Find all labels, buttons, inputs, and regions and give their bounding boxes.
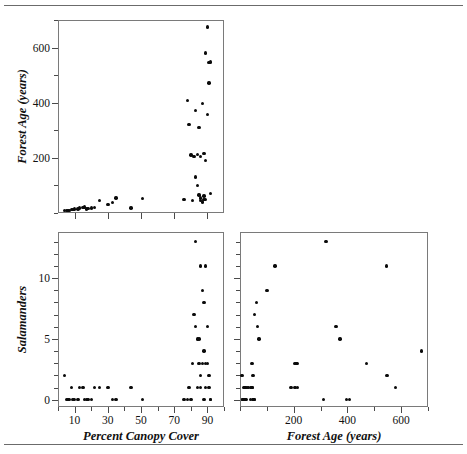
x-tick-minor xyxy=(91,407,92,411)
x-tick-label: 200 xyxy=(285,414,302,426)
data-point xyxy=(251,374,254,377)
data-point xyxy=(202,398,205,401)
data-point xyxy=(191,199,194,202)
y-tick-minor xyxy=(54,375,58,376)
y-tick-label: 5 xyxy=(44,333,50,345)
x-tick-minor xyxy=(267,407,268,411)
data-point xyxy=(204,159,207,162)
y-tick-major xyxy=(52,158,58,159)
data-point xyxy=(206,362,209,365)
data-point xyxy=(70,386,73,389)
y-tick-label: 0 xyxy=(44,394,50,406)
y-tick-minor xyxy=(54,315,58,316)
data-point xyxy=(187,386,190,389)
data-point xyxy=(194,325,197,328)
x-tick-major xyxy=(207,213,208,219)
y-tick-label: 400 xyxy=(33,97,50,109)
y-tick-label: 10 xyxy=(39,272,51,284)
x-tick-minor xyxy=(191,407,192,411)
data-point xyxy=(204,264,207,267)
y-tick-major xyxy=(52,339,58,340)
y-tick-minor xyxy=(236,327,240,328)
data-point xyxy=(243,386,246,389)
data-point xyxy=(209,398,212,401)
y-tick-major xyxy=(52,103,58,104)
data-point xyxy=(253,313,256,316)
x-tick-label: 50 xyxy=(135,414,147,426)
data-point xyxy=(129,206,132,209)
x-tick-major xyxy=(141,407,142,413)
y-tick-major xyxy=(52,48,58,49)
data-point xyxy=(141,398,144,401)
y-tick-minor xyxy=(54,290,58,291)
y-tick-label: 200 xyxy=(33,152,50,164)
x-tick-major xyxy=(207,407,208,413)
data-point xyxy=(202,349,205,352)
data-point xyxy=(199,386,202,389)
panel-forest-age-vs-canopy: 200400600 xyxy=(58,20,224,213)
data-point xyxy=(240,374,243,377)
x-tick-label: 30 xyxy=(102,414,114,426)
y-tick-minor xyxy=(236,315,240,316)
y-tick-minor xyxy=(54,388,58,389)
data-point xyxy=(348,398,351,401)
x-tick-major xyxy=(75,213,76,219)
data-point xyxy=(334,325,337,328)
top-horizontal-rule xyxy=(4,5,463,6)
data-point xyxy=(273,264,276,267)
data-point xyxy=(141,197,144,200)
data-point xyxy=(345,398,348,401)
data-point xyxy=(98,199,101,202)
data-point xyxy=(93,206,96,209)
y-tick-minor xyxy=(54,20,58,21)
data-point xyxy=(197,337,200,340)
y-tick-minor xyxy=(236,290,240,291)
data-point xyxy=(250,362,253,365)
x-tick-minor xyxy=(374,407,375,411)
y-tick-major xyxy=(52,278,58,279)
x-tick-major xyxy=(401,407,402,413)
data-point xyxy=(202,301,205,304)
x-tick-minor xyxy=(224,407,225,411)
data-point xyxy=(209,192,212,195)
x-tick-label: 10 xyxy=(69,414,81,426)
x-tick-major xyxy=(174,213,175,219)
plot-area-points xyxy=(240,232,428,407)
data-point xyxy=(207,386,210,389)
x-tick-minor xyxy=(428,407,429,411)
x-tick-label: 600 xyxy=(393,414,410,426)
plot-area-points xyxy=(58,232,224,407)
data-point xyxy=(63,374,66,377)
data-point xyxy=(196,184,199,187)
y-tick-minor xyxy=(54,254,58,255)
y-tick-label: 600 xyxy=(33,42,50,54)
y-tick-major xyxy=(234,400,240,401)
y-tick-minor xyxy=(236,242,240,243)
x-tick-major xyxy=(141,213,142,219)
y-tick-minor xyxy=(54,213,58,214)
scatterplot-matrix-figure: 200400600 Forest Age (years) 0510 103050… xyxy=(0,0,467,454)
data-point xyxy=(199,264,202,267)
y-tick-minor xyxy=(236,363,240,364)
data-point xyxy=(186,99,189,102)
y-tick-minor xyxy=(54,75,58,76)
data-point xyxy=(256,325,259,328)
data-point xyxy=(207,81,210,84)
data-point xyxy=(189,398,192,401)
data-point xyxy=(201,289,204,292)
data-point xyxy=(106,386,109,389)
y-tick-major xyxy=(52,400,58,401)
y-tick-minor xyxy=(236,351,240,352)
x-tick-minor xyxy=(321,407,322,411)
data-point xyxy=(201,102,204,105)
data-point xyxy=(76,398,79,401)
data-point xyxy=(194,240,197,243)
y-tick-minor xyxy=(236,388,240,389)
y-tick-minor xyxy=(54,242,58,243)
x-tick-label: 400 xyxy=(339,414,356,426)
x-tick-minor xyxy=(158,407,159,411)
x-tick-minor xyxy=(58,407,59,411)
panel-salamanders-vs-forest-age: 200400600 xyxy=(240,232,428,407)
data-point xyxy=(129,386,132,389)
data-point xyxy=(385,374,388,377)
